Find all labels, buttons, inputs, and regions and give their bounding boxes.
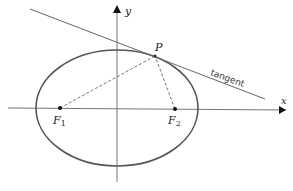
- focus-1-letter: F: [52, 114, 61, 127]
- focus-1-label: F1: [52, 114, 66, 128]
- x-axis-label: x: [281, 95, 287, 106]
- point-p: [153, 54, 156, 57]
- focus-2-point: [173, 107, 177, 111]
- focus-2-letter: F: [167, 114, 176, 127]
- focus-1-point: [58, 106, 62, 110]
- focal-line-f2-p: [155, 56, 175, 109]
- point-p-label: P: [154, 41, 163, 54]
- ellipse-diagram: y x P tangent F1 F2: [0, 0, 293, 191]
- focus-2-label: F2: [167, 114, 181, 128]
- focus-1-subscript: 1: [61, 119, 66, 128]
- focus-2-subscript: 2: [176, 119, 181, 128]
- x-axis-arrow-icon: [279, 106, 286, 114]
- tangent-line: [30, 9, 265, 99]
- tangent-label: tangent: [209, 67, 246, 89]
- x-axis: [8, 108, 286, 110]
- y-axis-label: y: [124, 5, 132, 18]
- focal-line-f1-p: [60, 56, 155, 108]
- y-axis-arrow-icon: [113, 5, 121, 13]
